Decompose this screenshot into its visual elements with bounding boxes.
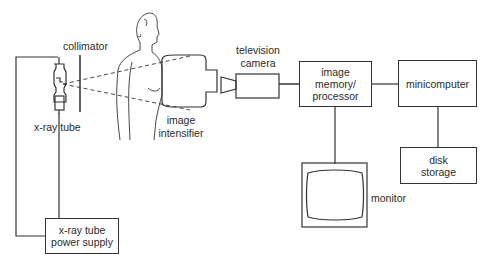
- monitor-icon: [302, 163, 367, 227]
- xray-tube-label: x-ray tube: [34, 121, 81, 133]
- disk-storage-line-1: disk: [429, 154, 448, 166]
- image-memory-processor-box: image memory/ processor: [299, 61, 372, 107]
- xray-power-supply-box: x-ray tube power supply: [45, 218, 119, 254]
- image-intensifier-label-2: intensifier: [156, 127, 206, 139]
- disk-storage-box: disk storage: [400, 147, 477, 184]
- collimator-label: collimator: [63, 40, 108, 52]
- disk-storage-line-2: storage: [421, 166, 456, 178]
- power-supply-line-2: power supply: [51, 236, 113, 248]
- television-camera-label-1: television: [230, 44, 286, 56]
- xray-beam: [63, 56, 190, 110]
- image-intensifier-icon: [162, 55, 217, 107]
- xray-tube-icon: [54, 57, 66, 114]
- television-camera-icon: [236, 74, 279, 98]
- image-memory-line-2: memory/: [315, 78, 356, 90]
- power-cable-left: [16, 57, 58, 236]
- minicomputer-box: minicomputer: [398, 60, 477, 107]
- image-memory-line-3: processor: [312, 90, 358, 102]
- monitor-label: monitor: [371, 192, 406, 204]
- image-memory-line-1: image: [321, 66, 350, 78]
- image-intensifier-label-1: image: [156, 114, 206, 126]
- camera-lens-icon: [221, 77, 236, 93]
- minicomputer-label: minicomputer: [406, 78, 469, 90]
- power-supply-line-1: x-ray tube: [59, 224, 106, 236]
- television-camera-label-2: camera: [230, 57, 286, 69]
